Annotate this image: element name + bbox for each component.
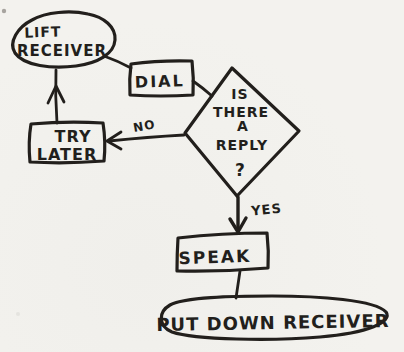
end-terminal-label: PUT DOWN RECEIVER: [156, 310, 390, 335]
dial-process-label: DIAL: [135, 71, 185, 92]
flowchart-svg: LIFT RECEIVER DIAL IS THERE A REPLY ? NO…: [0, 0, 404, 352]
hand-drawn-flowchart: LIFT RECEIVER DIAL IS THERE A REPLY ? NO…: [0, 0, 404, 352]
speak-process-label: SPEAK: [178, 246, 251, 269]
reply-decision-label-line5: ?: [235, 160, 245, 180]
no-branch-label: NO: [132, 117, 156, 135]
connector-speak-to-end: [236, 271, 240, 298]
try-later-process-label-line2: LATER: [37, 145, 98, 164]
arrow-line-try-later-to-start: [56, 70, 57, 123]
try-later-process-label-line1: TRY: [55, 127, 92, 146]
yes-branch-label: YES: [249, 200, 282, 218]
start-terminal-label-line2: RECEIVER: [17, 42, 107, 60]
ink-speck: [2, 9, 6, 13]
connector-dial-to-decision: [193, 81, 212, 96]
reply-decision-label-line3: A: [237, 118, 249, 134]
reply-decision-label-line4: REPLY: [216, 137, 268, 153]
ink-smudge: [16, 312, 20, 316]
connector-start-to-dial: [104, 56, 131, 68]
start-terminal-label-line1: LIFT: [24, 23, 62, 40]
arrow-line-decision-to-try-later: [109, 135, 184, 141]
reply-decision-label-line1: IS: [231, 86, 248, 102]
